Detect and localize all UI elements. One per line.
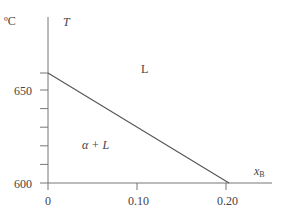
x-tick-label-0.10: 0.10 bbox=[128, 195, 149, 207]
y-unit-label: ºC bbox=[4, 15, 16, 27]
x-tick-label-0.20: 0.20 bbox=[217, 195, 238, 207]
region-label-alpha-plus-liquid: α + L bbox=[82, 139, 109, 151]
region-label-liquid: L bbox=[141, 63, 148, 75]
y-axis-label: T bbox=[63, 16, 70, 28]
x-axis-label: xB bbox=[254, 165, 265, 181]
y-tick-label-650: 650 bbox=[14, 85, 32, 97]
y-ticks bbox=[40, 73, 48, 183]
liquidus-line bbox=[48, 73, 229, 183]
y-tick-label-600: 600 bbox=[14, 178, 32, 190]
x-ticks bbox=[48, 183, 226, 190]
x-axis-label-subscript: B bbox=[259, 170, 264, 179]
x-tick-label-0: 0 bbox=[45, 195, 51, 207]
phase-diagram-plot bbox=[0, 0, 285, 220]
